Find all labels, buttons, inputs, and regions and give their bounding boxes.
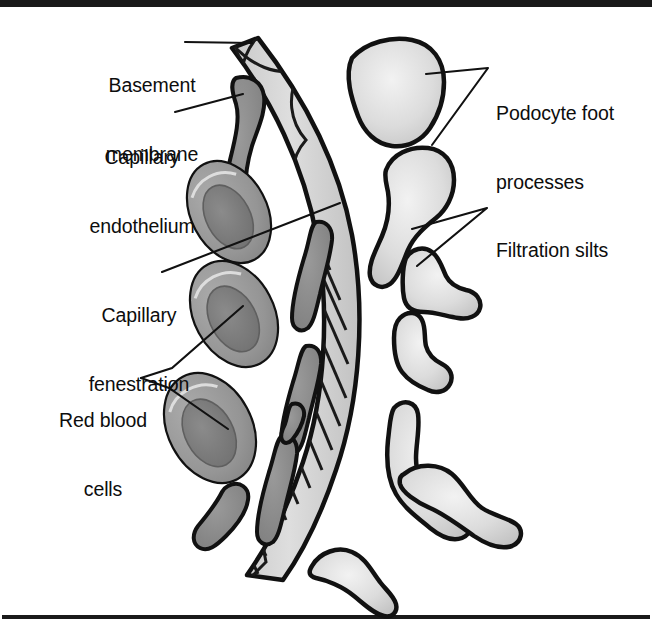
podocyte-third <box>403 249 481 319</box>
label-filtration-silts-line1: Filtration silts <box>496 239 648 262</box>
label-filtration-silts: Filtration silts <box>496 193 648 308</box>
label-capillary-fenestration-line1: Capillary <box>56 304 222 327</box>
label-podocyte-foot-processes-line1: Podocyte foot <box>496 102 648 125</box>
label-podocyte-foot-processes-line2: processes <box>496 171 648 194</box>
label-capillary-endothelium-line1: Capillary <box>62 146 222 169</box>
label-red-blood-cells-line1: Red blood <box>30 409 176 432</box>
podocyte-top <box>349 39 444 147</box>
label-capillary-endothelium-line2: endothelium <box>62 215 222 238</box>
label-red-blood-cells: Red blood cells <box>30 363 176 547</box>
label-red-blood-cells-line2: cells <box>30 478 176 501</box>
label-capillary-endothelium: Capillary endothelium <box>62 100 222 284</box>
label-basement-membrane-line1: Basement <box>78 74 226 97</box>
endothelial-cell-5 <box>194 484 249 549</box>
podocyte-fourth <box>394 313 452 392</box>
glomerular-filtration-diagram: Basement membrane Capillary endothelium … <box>0 0 652 633</box>
podocyte-seventh <box>310 550 397 617</box>
